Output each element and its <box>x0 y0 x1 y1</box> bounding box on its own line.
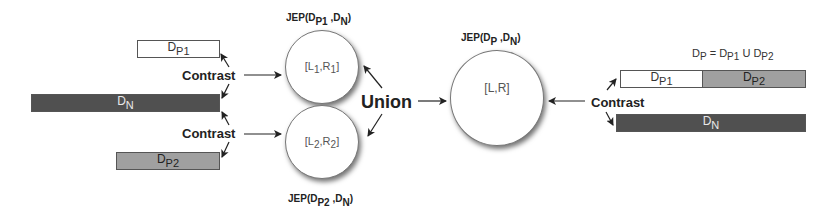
arrow-contrast-to-right-dn <box>606 112 613 125</box>
arrow-contrast-to-left-dn-bottom <box>222 112 229 125</box>
arrow-union-to-circle2 <box>368 114 382 136</box>
arrow-contrast-to-left-dn-top <box>222 84 229 98</box>
arrow-contrast-to-right-dp <box>607 79 616 90</box>
arrow-contrast-to-left-dp2 <box>222 142 229 157</box>
jep-union-diagram: DP1 DN DP2 Contrast Contrast JEP(DP1 ,DN… <box>0 0 830 216</box>
arrow-layer <box>0 0 830 216</box>
arrow-union-to-circle1 <box>364 66 382 88</box>
arrow-contrast-to-left-dp1 <box>221 54 229 67</box>
